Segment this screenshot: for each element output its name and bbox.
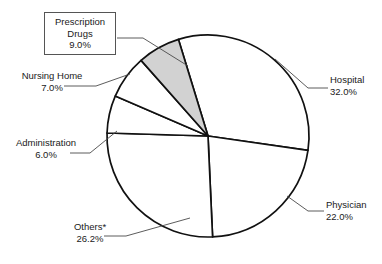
slice-label-prescription-drugs-line1: Prescription bbox=[47, 16, 113, 28]
slice-value-others: 26.2% bbox=[62, 233, 118, 245]
slice-label-physician-name: Physician bbox=[326, 199, 380, 211]
slice-label-nursing-home-name: Nursing Home bbox=[12, 70, 92, 82]
slice-label-hospital-name: Hospital bbox=[330, 74, 380, 86]
slice-value-hospital: 32.0% bbox=[330, 86, 380, 98]
pie-slice-others[interactable] bbox=[107, 133, 213, 237]
slice-label-nursing-home: Nursing Home 7.0% bbox=[12, 70, 92, 93]
slice-value-administration: 6.0% bbox=[6, 149, 86, 161]
slice-label-others: Others* 26.2% bbox=[62, 221, 118, 244]
pie-slice-group bbox=[107, 35, 309, 237]
slice-value-prescription-drugs: 9.0% bbox=[47, 39, 113, 51]
slice-label-physician: Physician 22.0% bbox=[326, 199, 380, 222]
slice-value-physician: 22.0% bbox=[326, 211, 380, 223]
leader-line-physician bbox=[287, 196, 324, 211]
slice-value-nursing-home: 7.0% bbox=[12, 82, 92, 94]
pie-slice-physician[interactable] bbox=[208, 136, 308, 237]
slice-label-administration-name: Administration bbox=[6, 137, 86, 149]
slice-label-hospital: Hospital 32.0% bbox=[330, 74, 380, 97]
slice-label-others-name: Others* bbox=[62, 221, 118, 233]
slice-label-prescription-drugs-line2: Drugs bbox=[47, 28, 113, 40]
slice-label-administration: Administration 6.0% bbox=[6, 137, 86, 160]
pie-chart-figure: Prescription Drugs 9.0% Nursing Home 7.0… bbox=[0, 0, 382, 264]
slice-label-prescription-drugs: Prescription Drugs 9.0% bbox=[44, 12, 116, 55]
